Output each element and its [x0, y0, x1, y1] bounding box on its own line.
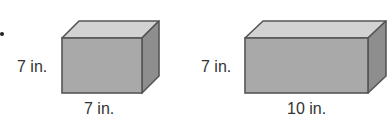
box-b-top-face [245, 21, 386, 38]
prism-box-b [245, 21, 386, 93]
box-a-length-label: 7 in. [84, 100, 114, 118]
box-b-front-face [245, 38, 368, 93]
box-b-length-label: 10 in. [287, 100, 326, 118]
box-b-height-label: 7 in. [201, 58, 231, 76]
box-a-height-label: 7 in. [17, 58, 47, 76]
box-a-front-face [62, 38, 142, 93]
rectangular-prisms-diagram [0, 0, 392, 121]
prism-box-a [62, 21, 159, 93]
